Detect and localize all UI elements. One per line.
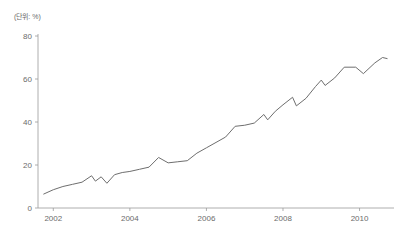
y-tick-label: 80 bbox=[23, 32, 32, 41]
x-tick-label: 2004 bbox=[121, 214, 139, 223]
x-axis: 20022004200620082010 bbox=[38, 208, 394, 223]
line-chart-plot: 020406080 20022004200620082010 bbox=[0, 0, 401, 239]
chart-container: (단위: %) 020406080 20022004200620082010 bbox=[0, 0, 401, 239]
x-tick-label: 2008 bbox=[274, 214, 292, 223]
y-tick-label: 20 bbox=[23, 161, 32, 170]
y-tick-label: 40 bbox=[23, 118, 32, 127]
y-axis: 020406080 bbox=[23, 32, 38, 213]
y-tick-label: 0 bbox=[28, 204, 33, 213]
series-line-value bbox=[44, 58, 387, 195]
y-tick-label: 60 bbox=[23, 75, 32, 84]
x-tick-label: 2002 bbox=[44, 214, 62, 223]
data-series-group bbox=[44, 58, 387, 195]
x-tick-label: 2010 bbox=[351, 214, 369, 223]
x-tick-label: 2006 bbox=[198, 214, 216, 223]
